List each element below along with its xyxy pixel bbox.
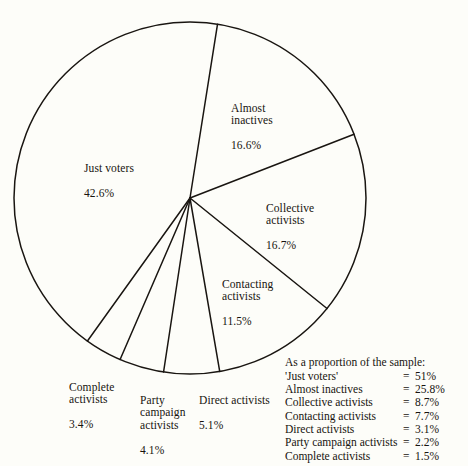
pie-chart-figure: Almost inactives 16.6% Just voters 42.6%… xyxy=(0,0,468,466)
slice-label-almost-inactives: Almost inactives 16.6% xyxy=(231,89,273,165)
legend-row: Almost inactives=25.8% xyxy=(285,383,468,396)
legend-row: Collective activists=8.7% xyxy=(285,396,468,409)
legend-row-value: 3.1% xyxy=(415,423,439,436)
legend-row-equals: = xyxy=(403,436,415,449)
legend-row-equals: = xyxy=(403,383,415,396)
legend-row-value: 51% xyxy=(415,370,436,383)
legend-row-label: Contacting activists xyxy=(285,410,403,423)
slice-label-name: Collective activists xyxy=(266,202,314,227)
slice-label-percent: 16.6% xyxy=(231,139,273,152)
legend-row: Direct activists=3.1% xyxy=(285,423,468,436)
slice-label-percent: 5.1% xyxy=(199,419,270,432)
slice-label-percent: 11.5% xyxy=(222,315,273,328)
legend-row-label: Direct activists xyxy=(285,423,403,436)
slice-label-percent: 4.1% xyxy=(140,444,186,457)
legend-row-value: 7.7% xyxy=(415,410,439,423)
slice-label-percent: 42.6% xyxy=(84,187,134,200)
slice-label-party-campaign-activists: Party campaign activists 4.1% xyxy=(140,381,186,466)
slice-label-name: Almost inactives xyxy=(231,102,273,127)
legend-row: 'Just voters'=51% xyxy=(285,370,468,383)
legend-row: Complete activists=1.5% xyxy=(285,450,468,463)
legend-row-value: 2.2% xyxy=(415,436,439,449)
legend-row-equals: = xyxy=(403,396,415,409)
pie-slice-boundary xyxy=(190,198,220,371)
legend-row-equals: = xyxy=(403,370,415,383)
slice-label-name: Party campaign activists xyxy=(140,394,186,432)
pie-slice-boundary xyxy=(164,198,190,372)
slice-label-percent: 3.4% xyxy=(69,418,115,431)
slice-label-complete-activists: Complete activists 3.4% xyxy=(69,368,115,444)
legend-row-equals: = xyxy=(403,410,415,423)
legend-row-equals: = xyxy=(403,423,415,436)
slice-label-name: Just voters xyxy=(84,162,134,175)
legend-row-label: 'Just voters' xyxy=(285,370,403,383)
slice-label-direct-activists: Direct activists 5.1% xyxy=(199,381,270,444)
slice-label-contacting-activists: Contacting activists 11.5% xyxy=(222,265,273,341)
legend-row-label: Complete activists xyxy=(285,450,403,463)
pie-slice-boundary xyxy=(87,198,190,341)
slice-label-just-voters: Just voters 42.6% xyxy=(84,149,134,212)
legend-row-equals: = xyxy=(403,450,415,463)
pie-slice-boundary xyxy=(120,198,190,360)
chart-legend: As a proportion of the sample: 'Just vot… xyxy=(285,356,468,463)
pie-slice-boundary xyxy=(190,24,218,198)
slice-label-name: Contacting activists xyxy=(222,278,273,303)
legend-row-label: Almost inactives xyxy=(285,383,403,396)
legend-row-value: 8.7% xyxy=(415,396,439,409)
legend-rows: 'Just voters'=51%Almost inactives=25.8%C… xyxy=(285,370,468,463)
legend-row-value: 25.8% xyxy=(415,383,445,396)
legend-row-label: Party campaign activists xyxy=(285,436,403,449)
legend-row-value: 1.5% xyxy=(415,450,439,463)
slice-label-name: Complete activists xyxy=(69,381,115,406)
legend-row-label: Collective activists xyxy=(285,396,403,409)
slice-label-name: Direct activists xyxy=(199,394,270,407)
legend-row: Contacting activists=7.7% xyxy=(285,410,468,423)
slice-label-collective-activists: Collective activists 16.7% xyxy=(266,189,314,265)
slice-label-percent: 16.7% xyxy=(266,239,314,252)
legend-title: As a proportion of the sample: xyxy=(285,356,468,369)
legend-row: Party campaign activists=2.2% xyxy=(285,436,468,449)
